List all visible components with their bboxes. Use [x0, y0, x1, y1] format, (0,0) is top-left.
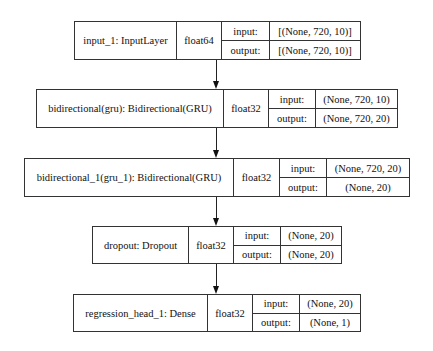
node-dropout: dropout: Dropout float32 input: output: … [92, 226, 342, 264]
input-label: input: [234, 227, 280, 246]
output-label: output: [253, 314, 299, 332]
output-shape: (None, 1) [300, 314, 360, 332]
io-shapes: (None, 720, 10) (None, 720, 20) [316, 90, 397, 127]
layer-name: dropout: Dropout [93, 227, 189, 263]
layer-dtype: float32 [189, 227, 234, 263]
edge-2 [216, 128, 217, 151]
edge-1 [216, 60, 217, 82]
io-labels: input: output: [222, 22, 270, 59]
output-shape: (None, 720, 20) [316, 109, 397, 127]
arrowhead-icon [213, 150, 219, 158]
layer-name: bidirectional(gru): Bidirectional(GRU) [37, 90, 224, 127]
output-shape: (None, 20) [327, 178, 409, 196]
output-label: output: [222, 41, 269, 59]
io-labels: input: output: [269, 90, 316, 127]
node-bidirectional: bidirectional(gru): Bidirectional(GRU) f… [36, 89, 398, 128]
io-labels: input: output: [234, 227, 281, 263]
input-label: input: [280, 159, 326, 178]
input-label: input: [222, 22, 269, 41]
io-shapes: (None, 20) (None, 1) [300, 295, 360, 331]
edge-3 [216, 197, 217, 219]
layer-dtype: float32 [234, 159, 280, 196]
layer-name: input_1: InputLayer [75, 22, 177, 59]
layer-dtype: float32 [208, 295, 253, 331]
output-shape: [(None, 720, 10)] [270, 41, 360, 59]
io-labels: input: output: [280, 159, 327, 196]
output-label: output: [280, 178, 326, 196]
io-shapes: [(None, 720, 10)] [(None, 720, 10)] [270, 22, 360, 59]
arrowhead-icon [213, 218, 219, 226]
output-label: output: [234, 246, 280, 264]
layer-name: bidirectional_1(gru_1): Bidirectional(GR… [25, 159, 234, 196]
node-regression-head-1: regression_head_1: Dense float32 input: … [73, 294, 361, 332]
edge-4 [216, 264, 217, 287]
io-shapes: (None, 20) (None, 20) [281, 227, 341, 263]
layer-dtype: float32 [224, 90, 269, 127]
io-shapes: (None, 720, 20) (None, 20) [327, 159, 409, 196]
arrowhead-icon [213, 286, 219, 294]
input-shape: (None, 720, 10) [316, 90, 397, 109]
output-shape: (None, 20) [281, 246, 341, 264]
input-shape: (None, 720, 20) [327, 159, 409, 178]
node-input-1: input_1: InputLayer float64 input: outpu… [74, 21, 361, 60]
layer-dtype: float64 [177, 22, 222, 59]
input-shape: (None, 20) [281, 227, 341, 246]
io-labels: input: output: [253, 295, 300, 331]
input-label: input: [253, 295, 299, 314]
input-shape: [(None, 720, 10)] [270, 22, 360, 41]
input-label: input: [269, 90, 315, 109]
arrowhead-icon [213, 81, 219, 89]
input-shape: (None, 20) [300, 295, 360, 314]
layer-name: regression_head_1: Dense [74, 295, 208, 331]
node-bidirectional-1: bidirectional_1(gru_1): Bidirectional(GR… [24, 158, 410, 197]
output-label: output: [269, 109, 315, 127]
